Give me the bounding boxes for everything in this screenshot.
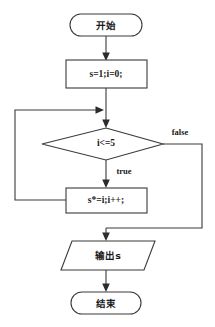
node-start[interactable]: 开始 [70,14,142,36]
node-condition[interactable]: i<=5 [42,128,163,160]
node-condition-label: i<=5 [97,138,115,148]
edge-condition-to-body [102,160,110,188]
node-end-label: 结束 [95,298,116,309]
edge-init-to-condition [102,88,110,128]
flowchart-diagram: 开始 s=1;i=0; i<=5 s*=i;i++; 输出s 结束 true [0,0,215,327]
edge-output-to-end [102,270,110,292]
node-init[interactable]: s=1;i=0; [66,60,147,88]
flowchart-canvas: 开始 s=1;i=0; i<=5 s*=i;i++; 输出s 结束 true [0,0,215,327]
node-end[interactable]: 结束 [71,292,141,314]
edge-label-false: false [172,127,189,137]
arrow-head-icon [102,284,110,293]
node-output-label: 输出s [95,250,121,261]
node-init-label: s=1;i=0; [90,69,123,79]
arrow-head-icon [96,106,105,114]
edge-label-true: true [116,166,131,176]
node-start-label: 开始 [96,20,116,31]
edge-start-to-init [102,36,110,61]
arrow-head-icon [102,180,110,189]
node-output[interactable]: 输出s [61,241,155,270]
node-body[interactable]: s*=i;i++; [66,188,147,213]
arrow-head-icon [102,120,110,129]
node-body-label: s*=i;i++; [88,195,124,205]
